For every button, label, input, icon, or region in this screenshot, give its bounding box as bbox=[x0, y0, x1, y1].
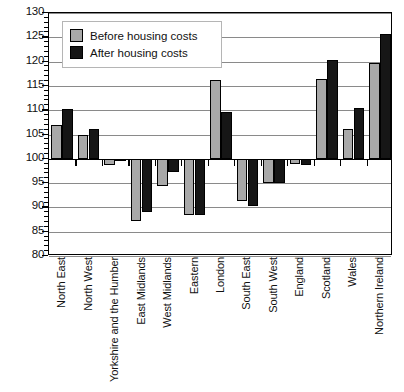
bar bbox=[62, 109, 73, 159]
bar bbox=[157, 159, 168, 187]
bar bbox=[248, 159, 259, 206]
y-tick-label-125: 125 bbox=[10, 30, 44, 42]
y-tick-mark-105 bbox=[42, 134, 48, 135]
x-axis-label: London bbox=[215, 257, 226, 293]
legend-swatch-before-icon bbox=[70, 29, 83, 42]
bar bbox=[115, 159, 126, 161]
y-tick-minor bbox=[44, 75, 48, 76]
y-tick-minor bbox=[44, 51, 48, 52]
y-tick-label-85: 85 bbox=[10, 225, 44, 237]
category-tick bbox=[314, 159, 315, 166]
y-tick-minor bbox=[44, 226, 48, 227]
y-tick-mark-125 bbox=[42, 36, 48, 37]
legend-item-before: Before housing costs bbox=[70, 27, 214, 44]
y-tick-label-95: 95 bbox=[10, 176, 44, 188]
category-tick bbox=[287, 159, 288, 166]
y-tick-minor bbox=[44, 90, 48, 91]
legend-swatch-after-icon bbox=[70, 46, 83, 59]
bar bbox=[274, 159, 285, 183]
bar bbox=[221, 112, 232, 159]
y-tick-minor bbox=[44, 221, 48, 222]
x-axis-label: West Midlands bbox=[162, 257, 173, 328]
y-tick-minor bbox=[44, 138, 48, 139]
bar bbox=[131, 159, 142, 221]
category-tick bbox=[234, 159, 235, 166]
x-axis-label: North East bbox=[56, 257, 67, 308]
bar bbox=[237, 159, 248, 201]
y-tick-label-115: 115 bbox=[10, 79, 44, 91]
category-tick bbox=[128, 159, 129, 166]
bar bbox=[290, 159, 301, 164]
y-tick-minor bbox=[44, 56, 48, 57]
y-tick-minor bbox=[44, 95, 48, 96]
y-tick-minor bbox=[44, 148, 48, 149]
y-tick-minor bbox=[44, 240, 48, 241]
y-tick-label-80: 80 bbox=[10, 249, 44, 261]
x-axis-label: South West bbox=[267, 257, 278, 313]
gridline-90 bbox=[49, 207, 391, 208]
bar bbox=[327, 60, 338, 159]
bar bbox=[89, 129, 100, 159]
y-tick-mark-95 bbox=[42, 182, 48, 183]
bar bbox=[369, 63, 380, 159]
y-tick-mark-120 bbox=[42, 61, 48, 62]
x-axis-label: Wales bbox=[347, 257, 358, 287]
bar bbox=[354, 108, 365, 159]
y-tick-label-120: 120 bbox=[10, 55, 44, 67]
y-tick-minor bbox=[44, 168, 48, 169]
bar bbox=[184, 159, 195, 215]
legend-item-after: After housing costs bbox=[70, 44, 214, 61]
bar bbox=[210, 80, 221, 159]
bar bbox=[168, 159, 179, 172]
y-tick-minor bbox=[44, 211, 48, 212]
y-tick-minor bbox=[44, 31, 48, 32]
y-tick-minor bbox=[44, 202, 48, 203]
y-tick-minor bbox=[44, 163, 48, 164]
x-axis-label: England bbox=[294, 257, 305, 297]
y-tick-minor bbox=[44, 104, 48, 105]
bar bbox=[380, 34, 391, 159]
legend-label-before: Before housing costs bbox=[90, 30, 197, 42]
y-tick-label-100: 100 bbox=[10, 152, 44, 164]
y-tick-minor bbox=[44, 124, 48, 125]
y-tick-minor bbox=[44, 114, 48, 115]
y-tick-minor bbox=[44, 119, 48, 120]
bar-chart: Before housing costs After housing costs… bbox=[0, 0, 404, 392]
y-tick-mark-85 bbox=[42, 231, 48, 232]
y-tick-minor bbox=[44, 245, 48, 246]
y-tick-minor bbox=[44, 46, 48, 47]
y-tick-label-90: 90 bbox=[10, 200, 44, 212]
y-tick-minor bbox=[44, 250, 48, 251]
y-tick-minor bbox=[44, 216, 48, 217]
y-tick-minor bbox=[44, 192, 48, 193]
bar bbox=[263, 159, 274, 183]
y-tick-label-130: 130 bbox=[10, 6, 44, 18]
x-axis-label: North West bbox=[82, 257, 93, 311]
y-tick-minor bbox=[44, 197, 48, 198]
y-tick-mark-90 bbox=[42, 206, 48, 207]
y-tick-minor bbox=[44, 143, 48, 144]
gridline-130 bbox=[49, 13, 391, 14]
y-tick-minor bbox=[44, 153, 48, 154]
bar bbox=[301, 159, 312, 165]
y-tick-minor bbox=[44, 70, 48, 71]
y-tick-mark-130 bbox=[42, 12, 48, 13]
y-tick-minor bbox=[44, 99, 48, 100]
gridline-85 bbox=[49, 232, 391, 233]
bar bbox=[343, 129, 354, 159]
x-axis-label: Scotland bbox=[320, 257, 331, 299]
y-tick-label-105: 105 bbox=[10, 128, 44, 140]
category-tick bbox=[367, 159, 368, 166]
category-tick bbox=[102, 159, 103, 166]
category-tick bbox=[261, 159, 262, 166]
y-tick-mark-110 bbox=[42, 109, 48, 110]
x-axis-label: Yorkshire and the Humber bbox=[109, 257, 120, 382]
chart-legend: Before housing costs After housing costs bbox=[62, 21, 222, 68]
y-tick-minor bbox=[44, 177, 48, 178]
x-axis-label: East Midlands bbox=[135, 257, 146, 325]
y-tick-minor bbox=[44, 187, 48, 188]
y-tick-minor bbox=[44, 17, 48, 18]
y-tick-minor bbox=[44, 65, 48, 66]
bar bbox=[78, 135, 89, 159]
x-axis-label: South East bbox=[241, 257, 252, 310]
